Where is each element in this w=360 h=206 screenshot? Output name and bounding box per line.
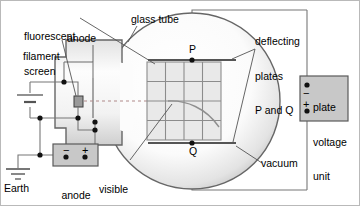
label-visible-trace: visible trace on screen: [99, 161, 137, 206]
node-earth-junction: [37, 152, 42, 157]
polarity-anode-minus: −: [63, 145, 69, 157]
label-deflecting-plates-line2: plates: [255, 71, 300, 83]
label-anode-voltage-unit: anode voltage unit: [47, 167, 105, 206]
label-fluorescent-screen-line2: screen: [24, 66, 75, 78]
label-plate-q: Q: [189, 146, 197, 158]
polarity-anode-plus: +: [82, 145, 88, 157]
fluorescent-screen-grid: [147, 62, 221, 140]
anode-unit-body: [53, 144, 98, 166]
label-plate-p: P: [189, 44, 196, 56]
label-earth: Earth: [4, 183, 29, 195]
label-deflecting-plates-line1: deflecting: [255, 36, 300, 48]
label-anode-voltage-unit-line1: anode: [47, 190, 105, 202]
label-plate-voltage-unit: plate voltage unit: [313, 79, 347, 206]
node-filament-bottom: [37, 115, 42, 120]
node-anode-lower: [75, 115, 80, 120]
node-anode-neck: [92, 119, 97, 124]
label-vacuum: vacuum: [261, 158, 298, 170]
label-plate-voltage-unit-line2: voltage: [313, 137, 347, 149]
label-anode: anode: [67, 33, 96, 45]
anode-voltage-unit-box[interactable]: [53, 144, 98, 166]
neck-bulb-join: [120, 64, 133, 130]
label-visible-trace-line1: visible: [99, 184, 137, 196]
crt-diagram-figure: fluorescent screen anode filament glass …: [0, 0, 360, 206]
polarity-plate-plus: +: [303, 99, 309, 111]
label-plate-voltage-unit-line3: unit: [313, 171, 347, 183]
plate-p-terminal: [189, 57, 194, 62]
label-deflecting-plates: deflecting plates P and Q: [255, 13, 300, 140]
label-plate-voltage-unit-line1: plate: [313, 102, 347, 114]
node-anode-neck-2: [92, 127, 97, 132]
label-deflecting-plates-line3: P and Q: [255, 105, 300, 117]
label-filament: filament: [23, 51, 60, 63]
label-glass-tube: glass tube: [131, 14, 179, 26]
